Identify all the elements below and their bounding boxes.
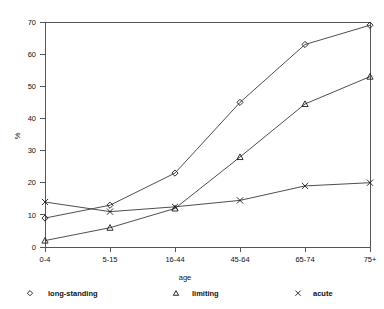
y-axis-title: % xyxy=(13,132,22,139)
x-tick-label: 65-74 xyxy=(295,255,314,264)
y-tick-label: 60 xyxy=(28,50,36,59)
y-tick-label: 0 xyxy=(32,243,36,252)
y-tick-label: 50 xyxy=(28,82,36,91)
legend-label-long-standing: long-standing xyxy=(48,289,98,298)
x-axis-title: age xyxy=(179,273,192,282)
x-tick-label: 45-64 xyxy=(230,255,249,264)
x-tick-label: 75+ xyxy=(364,255,377,264)
legend-label-limiting: limiting xyxy=(192,289,219,298)
y-tick-label: 40 xyxy=(28,114,36,123)
y-tick-label: 30 xyxy=(28,146,36,155)
chart-figure: 0 10 20 30 40 50 60 70 % 0-4 5-15 16-44 … xyxy=(0,0,384,309)
y-tick-label: 10 xyxy=(28,211,36,220)
y-tick-label: 70 xyxy=(28,18,36,27)
x-tick-label: 0-4 xyxy=(40,255,51,264)
legend-label-acute: acute xyxy=(313,289,333,298)
y-tick-label: 20 xyxy=(28,178,36,187)
x-tick-label: 5-15 xyxy=(102,255,117,264)
x-tick-label: 16-44 xyxy=(165,255,184,264)
